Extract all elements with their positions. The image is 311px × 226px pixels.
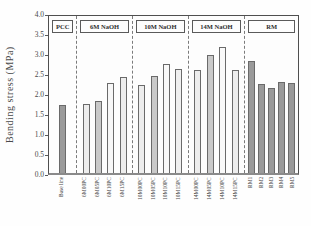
bar-base-line: [59, 105, 66, 173]
bar-rm5: [288, 83, 295, 173]
y-tick-label: 1.5: [22, 110, 44, 120]
x-tick-label: 14M05PC: [206, 177, 214, 223]
y-tick-label: 2.5: [22, 70, 44, 80]
bar-group-rm: RM: [245, 16, 298, 173]
x-tick-label: 6M05PC: [94, 177, 102, 223]
bar-group-10m-naoh: 10M NaOH: [133, 16, 189, 173]
x-tick-label: RM2: [258, 177, 266, 223]
chart-figure: Bending stress (MPa) 4.03.53.02.52.01.51…: [0, 0, 311, 226]
plot-area: PCC6M NaOH10M NaOH14M NaOHRM: [48, 15, 299, 175]
bar-group-pcc: PCC: [49, 16, 77, 173]
x-tick-label: 14M15PC: [232, 177, 240, 223]
y-tick-label: 3.5: [22, 30, 44, 40]
y-tick-label: 0.5: [22, 150, 44, 160]
bar-group-6m-naoh: 6M NaOH: [77, 16, 133, 173]
x-tick-label: 6M10PC: [106, 177, 114, 223]
group-header-box: 6M NaOH: [80, 20, 129, 33]
x-label-row: Base line6M00PC6M05PC6M10PC6M15PC10M00PC…: [48, 177, 299, 225]
bar-group-14m-naoh: 14M NaOH: [189, 16, 246, 173]
x-tick-label: Base line: [58, 177, 66, 223]
bar-rm1: [248, 61, 255, 173]
x-tick-label: 10M05PC: [150, 177, 158, 223]
x-tick-label: RM4: [278, 177, 286, 223]
group-header-box: 14M NaOH: [192, 20, 242, 33]
bar-10m15pc: [175, 69, 182, 173]
bar-10m00pc: [138, 85, 145, 173]
x-tick-label: 14M10PC: [219, 177, 227, 223]
x-tick-label: 14M00PC: [193, 177, 201, 223]
bar-6m15pc: [120, 77, 127, 173]
group-header-box: PCC: [52, 20, 73, 33]
group-header-box: RM: [248, 20, 295, 33]
y-tick-label: 0.0: [22, 170, 44, 180]
y-axis-title: Bending stress (MPa): [4, 15, 18, 175]
x-tick-label: RM5: [289, 177, 297, 223]
bar-14m05pc: [207, 55, 214, 173]
bar-rm2: [258, 84, 265, 173]
x-label-group: RM1RM2RM3RM4RM5: [245, 177, 299, 225]
bar-6m05pc: [95, 101, 102, 173]
x-label-group: 10M00PC10M05PC10M10PC10M15PC: [132, 177, 188, 225]
bar-rm4: [278, 82, 285, 173]
x-tick-label: RM1: [247, 177, 255, 223]
x-tick-label: RM3: [268, 177, 276, 223]
x-tick-label: 6M15PC: [119, 177, 127, 223]
group-header-box: 10M NaOH: [136, 20, 185, 33]
y-tick-label: 1.0: [22, 130, 44, 140]
bar-10m05pc: [151, 76, 158, 173]
bar-6m10pc: [107, 83, 114, 173]
bar-14m10pc: [219, 47, 226, 173]
bar-rm3: [268, 88, 275, 173]
x-label-group: 14M00PC14M05PC14M10PC14M15PC: [188, 177, 245, 225]
x-tick-label: 10M10PC: [162, 177, 170, 223]
y-tick-label: 4.0: [22, 10, 44, 20]
bar-10m10pc: [163, 64, 170, 173]
x-label-group: 6M00PC6M05PC6M10PC6M15PC: [76, 177, 132, 225]
x-tick-label: 6M00PC: [81, 177, 89, 223]
bar-14m00pc: [194, 70, 201, 173]
y-tick-label: 3.0: [22, 50, 44, 60]
bar-14m15pc: [232, 70, 239, 173]
y-tick-mark: [45, 175, 48, 176]
x-label-group: Base line: [48, 177, 76, 225]
y-tick-label: 2.0: [22, 90, 44, 100]
x-tick-label: 10M00PC: [137, 177, 145, 223]
x-tick-label: 10M15PC: [175, 177, 183, 223]
bar-6m00pc: [83, 104, 90, 173]
